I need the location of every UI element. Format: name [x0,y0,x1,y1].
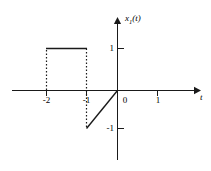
x-axis-label: t [200,93,203,102]
x-tick-label-negative-two: -2 [40,96,53,105]
y-tick-label-positive-one: 1 [105,44,114,53]
x-tick-label-negative-one: -1 [80,96,93,105]
y-axis-label: x1(t) [125,14,141,25]
signal-argument: (t) [132,13,141,23]
x-tick-label-positive-one: 1 [153,96,163,105]
y-tick-label-negative-one: -1 [101,124,114,133]
plot-canvas [0,0,211,171]
y-axis-arrow-icon [114,17,121,24]
signal-plot-figure: x1(t) t -2 -1 0 1 1 -1 [0,0,211,171]
x-tick-label-zero: 0 [120,96,130,105]
